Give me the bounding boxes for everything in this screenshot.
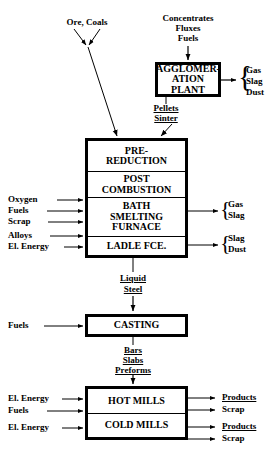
- furnace-input-alloys: Alloys: [8, 231, 32, 240]
- agglomeration-output-dust: Dust: [246, 88, 264, 97]
- intermediate-sinter: Sinter: [135, 114, 197, 123]
- agglomeration-line-3: PLANT: [171, 85, 205, 95]
- cold-mills-output-scrap: Scrap: [222, 434, 245, 443]
- furnace-cell-post-combustion[interactable]: POST COMBUSTION: [88, 171, 185, 197]
- diagram-canvas: Ore, Coals Concentrates Fluxes Fuels AGG…: [0, 0, 276, 454]
- mills-cell-cold[interactable]: COLD MILLS: [88, 413, 185, 437]
- hot-mills-input-el-energy: El. Energy: [8, 394, 49, 403]
- cold-mills-label: COLD MILLS: [105, 420, 169, 430]
- intermediate-liquid: Liquid: [103, 274, 163, 283]
- intermediate-pellets: Pellets: [135, 104, 197, 113]
- feed-label-ore-coals: Ore, Coals: [52, 18, 122, 27]
- hot-mills-output-products: Products: [222, 393, 256, 402]
- post-combustion-line-2: COMBUSTION: [102, 185, 171, 195]
- cold-mills-output-products: Products: [222, 422, 256, 431]
- cold-mills-input-el-energy: El. Energy: [8, 423, 49, 432]
- furnace-input-fuels: Fuels: [8, 206, 29, 215]
- hot-mills-output-scrap: Scrap: [222, 405, 245, 414]
- furnace-cell-pre-reduction[interactable]: PRE- REDUCTION: [88, 141, 185, 171]
- furnace-output-slag-lower: Slag: [228, 234, 245, 243]
- agglomeration-plant-label: AGGLOMER- ATION PLANT: [158, 65, 218, 94]
- furnace-output-dust: Dust: [228, 245, 246, 254]
- intermediate-bars: Bars: [103, 346, 163, 355]
- feed-label-concentrates: Concentrates: [143, 14, 233, 23]
- smelting-furnace-box[interactable]: PRE- REDUCTION POST COMBUSTION BATH SMEL…: [85, 138, 188, 258]
- ladle-fce-label: LADLE FCE.: [107, 241, 166, 251]
- intermediate-slabs: Slabs: [103, 356, 163, 365]
- furnace-input-scrap: Scrap: [8, 217, 31, 226]
- intermediate-preforms: Preforms: [100, 366, 166, 375]
- hot-mills-input-fuels: Fuels: [8, 406, 29, 415]
- mills-box[interactable]: HOT MILLS COLD MILLS: [85, 386, 188, 440]
- agglomeration-plant-box[interactable]: AGGLOMER- ATION PLANT: [155, 62, 221, 97]
- bath-smelting-line-3: FURNACE: [112, 222, 161, 232]
- feed-label-fluxes: Fluxes: [143, 24, 233, 33]
- arrow-ore: [74, 29, 86, 45]
- agglomeration-output-gas: Gas: [246, 66, 261, 75]
- feed-label-fuels-top: Fuels: [143, 34, 233, 43]
- furnace-output-gas: Gas: [228, 200, 243, 209]
- post-combustion-line-1: POST: [123, 174, 149, 184]
- furnace-cell-ladle-fce[interactable]: LADLE FCE.: [88, 236, 185, 255]
- casting-input-fuels: Fuels: [8, 321, 29, 330]
- intermediate-steel: Steel: [103, 285, 163, 294]
- arrow-ore-coals-to-furnace: [88, 47, 117, 136]
- agglomeration-output-slag: Slag: [246, 77, 263, 86]
- arrow-pellets-sinter-to-furnace: [161, 124, 172, 136]
- furnace-input-el-energy: El. Energy: [8, 242, 49, 251]
- furnace-input-oxygen: Oxygen: [8, 195, 38, 204]
- casting-box[interactable]: CASTING: [85, 314, 188, 337]
- mills-cell-hot[interactable]: HOT MILLS: [88, 389, 185, 413]
- furnace-output-slag: Slag: [228, 211, 245, 220]
- pre-reduction-line-2: REDUCTION: [106, 156, 167, 166]
- arrow-coals: [89, 29, 100, 45]
- hot-mills-label: HOT MILLS: [108, 396, 165, 406]
- casting-label: CASTING: [88, 317, 185, 334]
- furnace-cell-bath-smelting[interactable]: BATH SMELTING FURNACE: [88, 197, 185, 236]
